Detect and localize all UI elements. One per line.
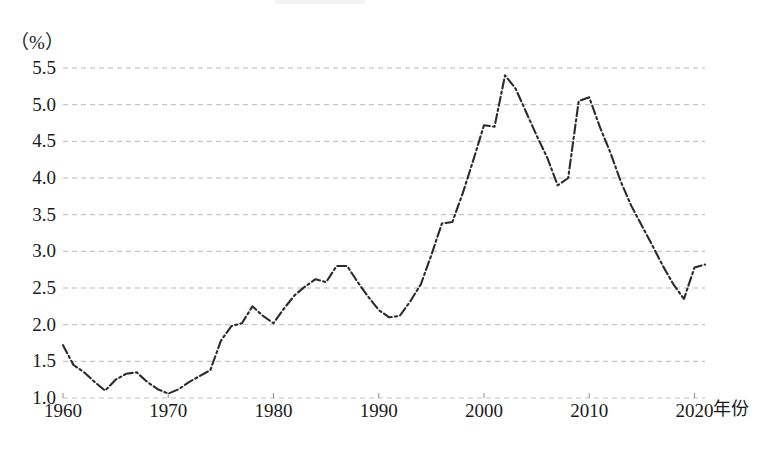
y-tick-label: 5.0 — [10, 95, 56, 114]
y-tick-label: 2.5 — [10, 278, 56, 297]
x-tick-label: 1980 — [235, 400, 311, 422]
y-tick-label: 5.5 — [10, 58, 56, 77]
gridlines-group — [63, 68, 705, 398]
x-tick-label: 1960 — [25, 400, 101, 422]
x-tick-label: 1970 — [130, 400, 206, 422]
y-tick-label: 4.0 — [10, 168, 56, 187]
x-tickmarks-group — [63, 393, 694, 398]
x-axis-title: 年份 — [713, 394, 749, 420]
chart-container: （%） 1.01.52.02.53.03.54.04.55.05.5 19601… — [0, 0, 766, 452]
y-tick-label: 2.0 — [10, 315, 56, 334]
data-series-line — [63, 75, 705, 393]
y-tick-label: 3.0 — [10, 241, 56, 260]
x-tick-label: 2000 — [446, 400, 522, 422]
y-tick-label: 1.5 — [10, 351, 56, 370]
y-tick-label: 3.5 — [10, 205, 56, 224]
x-tick-label: 2010 — [551, 400, 627, 422]
y-tick-label: 4.5 — [10, 131, 56, 150]
x-tick-label: 1990 — [341, 400, 417, 422]
line-chart-plot — [0, 0, 766, 452]
